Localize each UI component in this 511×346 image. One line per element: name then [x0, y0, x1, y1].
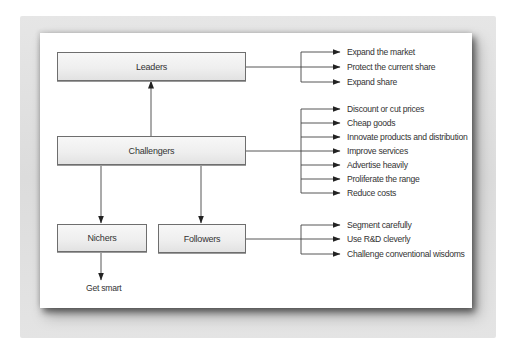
leaders-strategy-item: Protect the current share — [347, 62, 435, 72]
node-nichers-label: Nichers — [87, 233, 116, 243]
followers-strategy-item: Challenge conventional wisdoms — [347, 249, 465, 259]
nichers-strategy-label: Get smart — [86, 283, 121, 293]
leaders-strategy-item: Expand share — [347, 77, 397, 87]
challengers-strategy-item: Proliferate the range — [347, 174, 420, 184]
challengers-strategy-item: Discount or cut prices — [347, 104, 424, 114]
node-challengers: Challengers — [57, 136, 246, 165]
challengers-strategy-item: Cheap goods — [347, 118, 395, 128]
challengers-strategy-item: Innovate products and distribution — [347, 132, 468, 142]
node-leaders: Leaders — [57, 52, 246, 81]
leaders-strategy-item: Expand the market — [347, 47, 415, 57]
node-followers: Followers — [158, 224, 246, 253]
challengers-strategy-item: Advertise heavily — [347, 160, 408, 170]
node-challengers-label: Challengers — [129, 146, 175, 156]
challengers-strategy-item: Reduce costs — [347, 188, 396, 198]
followers-strategy-item: Use R&D cleverly — [347, 234, 410, 244]
node-followers-label: Followers — [184, 234, 221, 244]
followers-strategy-item: Segment carefully — [347, 220, 412, 230]
node-nichers: Nichers — [57, 224, 147, 252]
node-leaders-label: Leaders — [136, 62, 167, 72]
challengers-strategy-item: Improve services — [347, 146, 408, 156]
